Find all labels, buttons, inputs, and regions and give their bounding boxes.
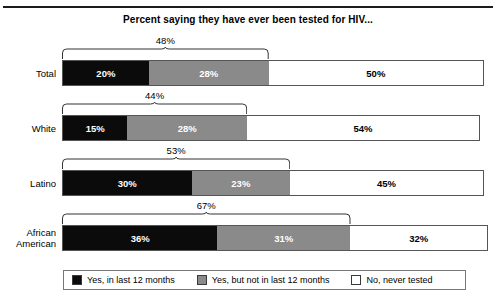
legend-item: No, never tested (329, 275, 432, 285)
brace-icon (62, 212, 351, 224)
segment-no-never-tested: 32% (350, 226, 487, 250)
row-label-line: White (0, 123, 56, 134)
row-label-total: Total (0, 68, 56, 79)
chart-plot-area: Total20%28%50%48%White15%28%54%44%Latino… (0, 0, 496, 300)
legend-label: No, never tested (366, 275, 432, 285)
legend-label: Yes, but not in last 12 months (212, 275, 330, 285)
legend-item: Yes, in last 12 months (64, 275, 175, 285)
brace-annotation: 67% (62, 212, 351, 236)
brace-icon (62, 102, 247, 114)
row-label-line: American (0, 238, 56, 249)
row-label-latino: Latino (0, 178, 56, 189)
segment-value-label: 45% (377, 178, 396, 189)
row-label-line: African (0, 227, 56, 238)
legend-swatch-gray (197, 275, 207, 285)
row-label-line: Total (0, 68, 56, 79)
legend-label: Yes, in last 12 months (87, 275, 175, 285)
brace-icon (62, 157, 290, 169)
segment-value-label: 32% (409, 233, 428, 244)
brace-annotation: 48% (62, 47, 269, 71)
row-label-african: AfricanAmerican (0, 227, 56, 249)
chart-legend: Yes, in last 12 monthsYes, but not in la… (63, 270, 466, 290)
brace-value-label: 48% (62, 35, 269, 46)
row-label-line: Latino (0, 178, 56, 189)
brace-annotation: 44% (62, 102, 247, 126)
brace-value-label: 53% (62, 145, 290, 156)
legend-swatch-white (351, 275, 361, 285)
segment-value-label: 50% (366, 68, 385, 79)
row-label-white: White (0, 123, 56, 134)
legend-item: Yes, but not in last 12 months (175, 275, 330, 285)
brace-value-label: 67% (62, 200, 351, 211)
brace-annotation: 53% (62, 157, 290, 181)
legend-swatch-black (72, 275, 82, 285)
chart-row: AfricanAmerican36%31%32%67% (0, 211, 496, 263)
brace-value-label: 44% (62, 90, 247, 101)
brace-icon (62, 47, 269, 59)
segment-value-label: 54% (353, 123, 372, 134)
segment-no-never-tested: 54% (247, 116, 478, 140)
segment-no-never-tested: 50% (269, 61, 483, 85)
segment-no-never-tested: 45% (290, 171, 483, 195)
